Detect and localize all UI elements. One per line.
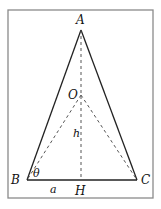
label-b: B bbox=[10, 173, 20, 187]
label-a: A bbox=[75, 13, 85, 27]
segment-oc bbox=[81, 95, 137, 180]
label-o: O bbox=[68, 88, 78, 102]
label-height-h: h bbox=[73, 127, 80, 140]
side-ac bbox=[81, 30, 137, 180]
label-base-a: a bbox=[50, 183, 57, 196]
triangle-diagram: A O B C H h a θ bbox=[0, 0, 161, 209]
label-c: C bbox=[141, 173, 150, 187]
label-h: H bbox=[74, 184, 86, 198]
label-angle-theta: θ bbox=[33, 167, 40, 180]
side-ab bbox=[27, 30, 81, 180]
